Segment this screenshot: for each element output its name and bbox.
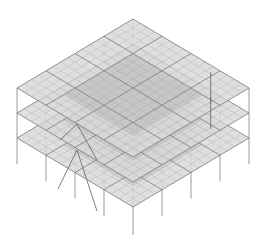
structural-model-canvas [0, 0, 263, 245]
isometric-building-frame [0, 0, 263, 245]
